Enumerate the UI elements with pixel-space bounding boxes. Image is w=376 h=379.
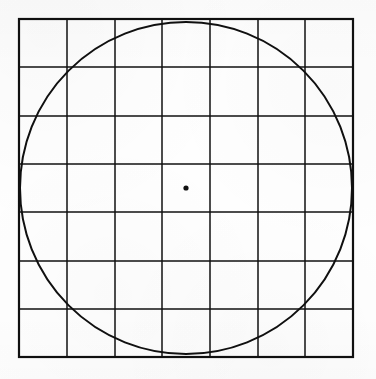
geometry-figure-svg: Square grid with inscribed circle and ce… <box>0 0 376 379</box>
figure-canvas: Square grid with inscribed circle and ce… <box>0 0 376 379</box>
center-point-dot <box>183 185 188 190</box>
